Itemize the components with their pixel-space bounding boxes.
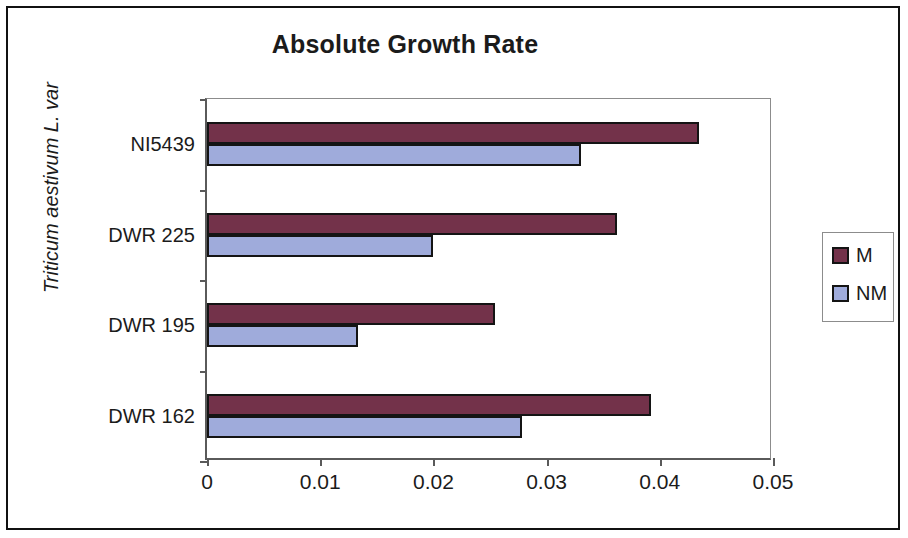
y-axis-category-label: DWR 162 — [108, 404, 195, 427]
y-axis-category-label: DWR 195 — [108, 314, 195, 337]
chart-legend: M NM — [822, 232, 894, 322]
x-axis-tick-label: 0.05 — [753, 470, 794, 494]
plot-inner: DWR 162DWR 195DWR 225NI543900.010.020.03… — [207, 99, 770, 458]
y-axis-category-label: DWR 225 — [108, 223, 195, 246]
legend-swatch-m-icon — [832, 247, 849, 264]
x-axis-tick — [207, 458, 209, 466]
bar-m — [207, 122, 699, 144]
bar-nm — [207, 325, 358, 347]
y-axis-title: Triticum aestivum L. var — [36, 98, 66, 460]
plot-area: DWR 162DWR 195DWR 225NI543900.010.020.03… — [205, 98, 771, 460]
y-axis-tick — [200, 190, 207, 192]
x-axis-tick — [320, 458, 322, 466]
y-axis-category-label: NI5439 — [131, 133, 196, 156]
legend-swatch-nm-icon — [832, 285, 849, 302]
y-axis-tick — [200, 371, 207, 373]
bar-nm — [207, 235, 433, 257]
chart-title: Absolute Growth Rate — [8, 30, 802, 59]
bar-nm — [207, 416, 522, 438]
x-axis-tick — [547, 458, 549, 466]
x-axis-tick-label: 0.04 — [639, 470, 680, 494]
y-axis-tick — [200, 99, 207, 101]
bar-m — [207, 213, 617, 235]
legend-label-m: M — [856, 245, 873, 265]
legend-entry-nm: NM — [832, 283, 893, 303]
x-axis-tick — [433, 458, 435, 466]
x-axis-tick-label: 0.02 — [413, 470, 454, 494]
y-axis-title-label: Triticum aestivum L. var — [40, 82, 63, 293]
bar-m — [207, 394, 651, 416]
bar-m — [207, 303, 495, 325]
x-axis-tick — [660, 458, 662, 466]
x-axis-tick-label: 0.03 — [526, 470, 567, 494]
legend-label-nm: NM — [856, 283, 887, 303]
bar-nm — [207, 144, 581, 166]
x-axis-tick-label: 0 — [201, 470, 213, 494]
x-axis-tick-label: 0.01 — [300, 470, 341, 494]
y-axis-tick — [200, 280, 207, 282]
y-axis-tick — [200, 461, 207, 463]
chart-screenshot: Absolute Growth Rate Triticum aestivum L… — [0, 0, 908, 538]
x-axis-tick — [773, 458, 775, 466]
legend-entry-m: M — [832, 245, 893, 265]
